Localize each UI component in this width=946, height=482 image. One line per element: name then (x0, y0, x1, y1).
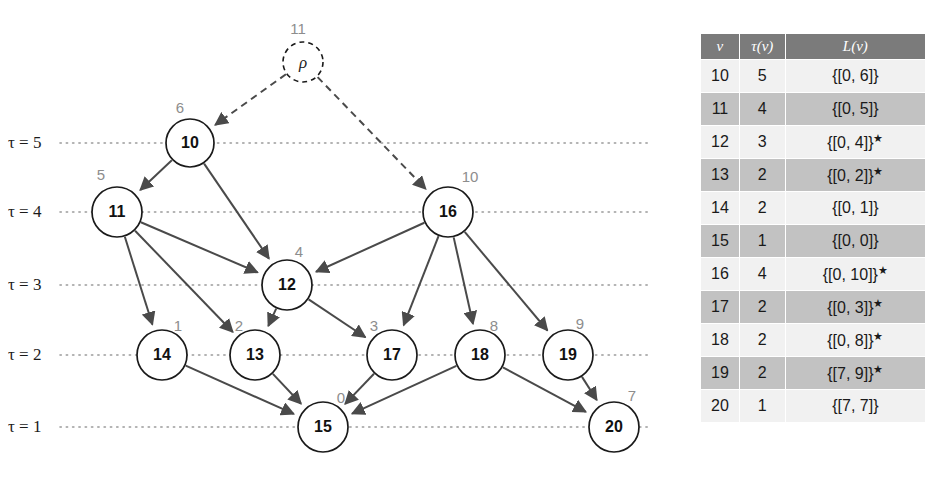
node-tag-11: 5 (97, 166, 105, 183)
node-tag-19: 9 (576, 315, 584, 332)
cell-label-set: {[0, 1]} (786, 192, 925, 224)
edge-16-to-19 (465, 232, 548, 331)
header-label: L(v) (786, 34, 925, 59)
table-row: 132{[0, 2]}★ (701, 159, 925, 191)
node-label-18: 18 (471, 346, 489, 364)
node-label-17: 17 (383, 346, 401, 364)
table-row: 182{[0, 8]}★ (701, 324, 925, 356)
cell-tau: 2 (740, 357, 785, 389)
tau-axis-label-tau-1: τ = 1 (8, 417, 41, 437)
edge-16-to-12 (316, 223, 424, 272)
table-row: 114{[0, 5]} (701, 93, 925, 125)
node-label-14: 14 (153, 346, 171, 364)
node-tag-12: 4 (295, 243, 303, 260)
star-marker-icon: ★ (878, 264, 888, 276)
cell-vertex: 14 (701, 192, 739, 224)
cell-tau: 1 (740, 390, 785, 422)
cell-label-set: {[0, 0]} (786, 225, 925, 257)
node-label-16: 16 (439, 203, 457, 221)
star-marker-icon: ★ (873, 363, 883, 375)
table-body: 105{[0, 6]}114{[0, 5]}123{[0, 4]}★132{[0… (701, 60, 925, 422)
node-tag-10: 6 (176, 99, 184, 116)
node-label-10: 10 (181, 134, 199, 152)
cell-tau: 4 (740, 258, 785, 290)
node-tag-17: 3 (370, 317, 378, 334)
graph-panel: τ = 5τ = 4τ = 3τ = 2τ = 1 ρ1110611516101… (0, 0, 672, 482)
graph-canvas (0, 0, 672, 482)
edge-16-to-17 (404, 236, 439, 325)
edge-12-to-13 (268, 309, 276, 326)
node-label-19: 19 (559, 346, 577, 364)
figure-root: τ = 5τ = 4τ = 3τ = 2τ = 1 ρ1110611516101… (0, 0, 946, 482)
node-tag-16: 10 (462, 168, 479, 185)
cell-vertex: 19 (701, 357, 739, 389)
header-tau: τ(v) (740, 34, 785, 59)
cell-vertex: 10 (701, 60, 739, 92)
cell-label-set: {[0, 8]}★ (786, 324, 925, 356)
node-tag-rho: 11 (290, 20, 306, 37)
table-row: 142{[0, 1]} (701, 192, 925, 224)
edge-13-to-15 (273, 374, 301, 404)
cell-tau: 2 (740, 291, 785, 323)
node-label-rho: ρ (299, 53, 307, 73)
node-layer (92, 42, 639, 452)
edge-16-to-18 (454, 237, 473, 323)
table-row: 105{[0, 6]} (701, 60, 925, 92)
node-tag-13: 2 (235, 317, 243, 334)
edge-11-to-14 (125, 237, 153, 325)
table-row: 151{[0, 0]} (701, 225, 925, 257)
cell-vertex: 16 (701, 258, 739, 290)
node-label-20: 20 (605, 418, 623, 436)
cell-tau: 2 (740, 324, 785, 356)
edge-10-to-12 (204, 164, 269, 259)
cell-tau: 1 (740, 225, 785, 257)
cell-tau: 4 (740, 93, 785, 125)
star-marker-icon: ★ (873, 330, 883, 342)
label-table-panel: v τ(v) L(v) 105{[0, 6]}114{[0, 5]}123{[0… (700, 33, 926, 423)
node-tag-15: 0 (337, 389, 345, 406)
node-tag-14: 1 (174, 317, 182, 334)
cell-vertex: 18 (701, 324, 739, 356)
tau-axis-label-tau-4: τ = 4 (8, 202, 41, 222)
cell-label-set: {[0, 6]} (786, 60, 925, 92)
tau-axis-label-tau-3: τ = 3 (8, 275, 41, 295)
node-label-12: 12 (278, 276, 296, 294)
node-label-11: 11 (109, 203, 126, 221)
cell-label-set: {[0, 5]} (786, 93, 925, 125)
cell-label-set: {[0, 2]}★ (786, 159, 925, 191)
tau-level-lines (60, 143, 650, 427)
table-row: 192{[7, 9]}★ (701, 357, 925, 389)
edge-12-to-17 (309, 299, 366, 337)
cell-label-set: {[7, 7]} (786, 390, 925, 422)
star-marker-icon: ★ (873, 297, 883, 309)
table-row: 164{[0, 10]}★ (701, 258, 925, 290)
cell-vertex: 17 (701, 291, 739, 323)
edge-10-to-11 (140, 160, 172, 190)
cell-tau: 5 (740, 60, 785, 92)
edge-11-to-12 (141, 222, 258, 272)
cell-label-set: {[0, 3]}★ (786, 291, 925, 323)
node-label-13: 13 (246, 346, 264, 364)
cell-vertex: 20 (701, 390, 739, 422)
cell-vertex: 11 (701, 93, 739, 125)
edge-rho-to-16 (318, 77, 426, 189)
table-row: 172{[0, 3]}★ (701, 291, 925, 323)
star-marker-icon: ★ (873, 132, 883, 144)
cell-tau: 2 (740, 192, 785, 224)
tau-axis-label-tau-5: τ = 5 (8, 133, 41, 153)
table-row: 201{[7, 7]} (701, 390, 925, 422)
cell-label-set: {[0, 10]}★ (786, 258, 925, 290)
edge-17-to-15 (345, 374, 374, 404)
cell-vertex: 12 (701, 126, 739, 158)
header-vertex: v (701, 34, 739, 59)
cell-tau: 2 (740, 159, 785, 191)
cell-label-set: {[0, 4]}★ (786, 126, 925, 158)
cell-vertex: 13 (701, 159, 739, 191)
edge-rho-to-10 (215, 74, 286, 125)
label-table: v τ(v) L(v) 105{[0, 6]}114{[0, 5]}123{[0… (700, 33, 926, 423)
cell-tau: 3 (740, 126, 785, 158)
node-tag-18: 8 (490, 317, 498, 334)
table-header-row: v τ(v) L(v) (701, 34, 925, 59)
node-label-15: 15 (314, 418, 332, 436)
tau-axis-label-tau-2: τ = 2 (8, 345, 41, 365)
